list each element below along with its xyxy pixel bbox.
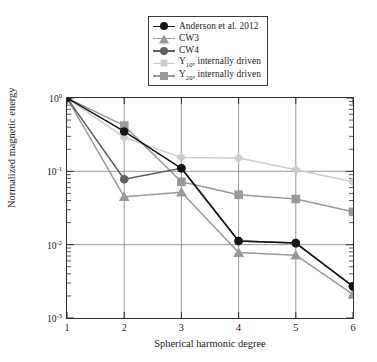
x-tick-label: 1: [64, 322, 69, 333]
legend-marker-circle-icon: [153, 21, 175, 32]
legend-item: Y10, internally driven: [153, 57, 261, 69]
series-line: [67, 98, 353, 212]
x-tick-label: 3: [179, 322, 184, 333]
chart-legend: Anderson et al. 2012CW3CW4Y10, internall…: [148, 16, 268, 86]
data-point: [292, 239, 301, 248]
data-point: [291, 165, 301, 175]
legend-label: Anderson et al. 2012: [179, 21, 258, 32]
series-line: [67, 98, 353, 286]
y-tick-label: 10-3: [2, 312, 62, 324]
series-line: [67, 98, 353, 182]
data-point: [120, 175, 129, 184]
plot-svg: [67, 98, 353, 318]
x-tick-label: 5: [293, 322, 298, 333]
legend-marker-square-icon: [153, 70, 175, 81]
y-axis-title: Normalized magnetic energy: [6, 88, 17, 208]
data-point: [234, 190, 243, 199]
x-tick-label: 2: [122, 322, 127, 333]
data-point: [349, 208, 353, 217]
plot-area: [66, 97, 354, 319]
y-tick-label: 10-2: [2, 239, 62, 251]
x-axis-title: Spherical harmonic degree: [66, 338, 354, 349]
data-point: [120, 127, 129, 136]
legend-marker-circle-icon: [153, 45, 175, 56]
legend-marker-diamond-icon: [153, 58, 175, 69]
legend-item: CW3: [153, 32, 261, 44]
data-point: [292, 195, 301, 204]
legend-label: CW4: [179, 45, 199, 56]
data-point: [234, 153, 244, 163]
legend-label: CW3: [179, 33, 199, 44]
y-tick-label: 100: [2, 92, 62, 104]
data-point: [177, 177, 186, 186]
y-tick-label: 10-1: [2, 165, 62, 177]
legend-label: Y20, internally driven: [179, 69, 261, 83]
x-tick-label: 6: [350, 322, 355, 333]
legend-marker-triangle-icon: [153, 33, 175, 44]
series-line: [67, 98, 353, 286]
data-point: [176, 187, 187, 197]
legend-item: Y20, internally driven: [153, 70, 261, 82]
legend-item: Anderson et al. 2012: [153, 20, 261, 32]
data-point: [234, 237, 243, 246]
data-point: [177, 164, 186, 173]
chart-figure: Anderson et al. 2012CW3CW4Y10, internall…: [0, 0, 377, 362]
legend-item: CW4: [153, 45, 261, 57]
data-point: [176, 152, 186, 162]
x-tick-label: 4: [236, 322, 241, 333]
